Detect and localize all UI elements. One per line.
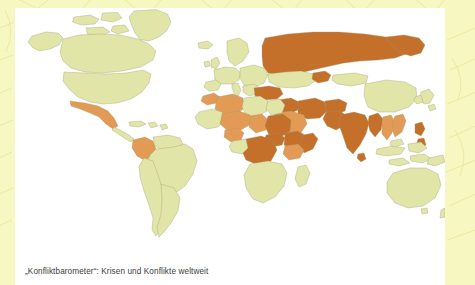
country-tasmania[interactable] bbox=[421, 208, 428, 214]
country-egypt[interactable] bbox=[266, 99, 285, 115]
world-map-svg[interactable] bbox=[15, 8, 445, 253]
figure-caption: „Konfliktbarometer“: Krisen und Konflikt… bbox=[25, 266, 435, 277]
world-conflict-map[interactable] bbox=[15, 8, 445, 253]
figure-panel: „Konfliktbarometer“: Krisen und Konflikt… bbox=[15, 8, 445, 285]
